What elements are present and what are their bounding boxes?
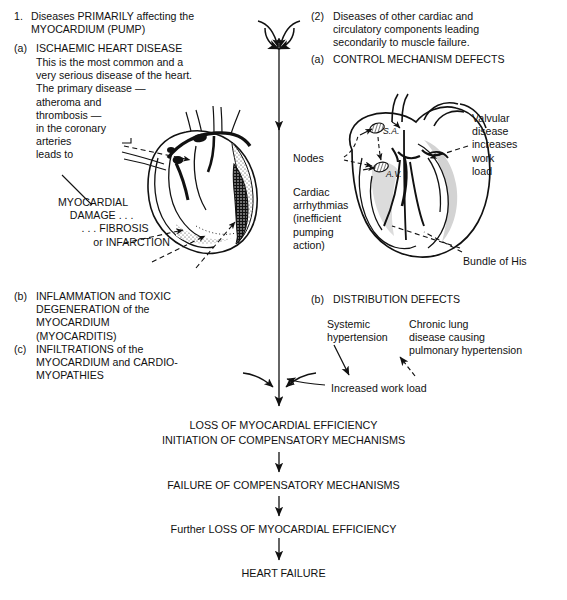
label-nodes: Nodes bbox=[293, 152, 324, 165]
control-mechanism-heart-illustration bbox=[344, 94, 490, 257]
branch-two-item-a: (a) CONTROL MECHANISM DEFECTS bbox=[311, 53, 561, 66]
label-increased-work-load: Increased work load bbox=[331, 382, 427, 395]
label-cardiac-arrhythmias: Cardiac arrhythmias (inefficient pumping… bbox=[293, 186, 348, 252]
pointer-valvular bbox=[430, 146, 468, 158]
label-sa-node: S.A. bbox=[383, 125, 399, 138]
coronary-branch bbox=[176, 163, 188, 200]
arrow-systemic bbox=[334, 345, 349, 375]
infarct-patch bbox=[233, 164, 248, 243]
branch-one-heading: 1. Diseases PRIMARILY affecting the MYOC… bbox=[14, 10, 246, 36]
item-a-marker: (a) bbox=[14, 42, 27, 55]
branch-two-heading: (2) Diseases of other cardiac and circul… bbox=[311, 10, 555, 50]
item-c-text: INFILTRATIONS of the MYOCARDIUM and CARD… bbox=[14, 343, 260, 383]
central-spine-fork-arms bbox=[258, 21, 300, 47]
item-a-title: ISCHAEMIC HEART DISEASE bbox=[14, 42, 250, 55]
heart-failure-flowchart: 1. Diseases PRIMARILY affecting the MYOC… bbox=[0, 0, 567, 600]
branch-two-item-a-title: CONTROL MECHANISM DEFECTS bbox=[311, 53, 561, 66]
branch-two-heading-text: Diseases of other cardiac and circulator… bbox=[311, 10, 555, 50]
pointer-bundle-of-his bbox=[392, 226, 462, 252]
label-av-node: A.V. bbox=[386, 168, 402, 181]
myocardial-damage-outcome: MYOCARDIAL DAMAGE . . . . . . FIBROSIS o… bbox=[58, 196, 170, 249]
branch-two-marker: (2) bbox=[311, 10, 324, 23]
item-a-body: This is the most common and a very serio… bbox=[36, 56, 246, 162]
branch-one-item-b: (b) INFLAMMATION and TOXIC DEGENERATION … bbox=[14, 290, 254, 343]
branch-one-heading-text: Diseases PRIMARILY affecting the MYOCARD… bbox=[14, 10, 246, 36]
branch-two-item-b-title: DISTRIBUTION DEFECTS bbox=[311, 293, 541, 306]
septum bbox=[404, 130, 406, 240]
item-b-text: INFLAMMATION and TOXIC DEGENERATION of t… bbox=[14, 290, 254, 343]
branch-two-item-a-marker: (a) bbox=[311, 53, 324, 66]
cascade-step-4: HEART FAILURE bbox=[0, 566, 567, 581]
label-valvular-disease: Valvular disease increases work load bbox=[472, 112, 517, 178]
distribution-arrows bbox=[287, 345, 415, 385]
branch-one-marker: 1. bbox=[14, 10, 23, 23]
cascade-step-2: FAILURE OF COMPENSATORY MECHANISMS bbox=[0, 478, 567, 493]
valve-cusps bbox=[392, 148, 442, 162]
cascade-step-1: LOSS OF MYOCARDIAL EFFICIENCY INITIATION… bbox=[0, 418, 567, 448]
branch-two-item-b-marker: (b) bbox=[311, 293, 324, 306]
arrow-to-spine bbox=[287, 379, 325, 385]
heart-outline-right bbox=[350, 107, 490, 257]
cascade-step-3: Further LOSS OF MYOCARDIAL EFFICIENCY bbox=[0, 522, 567, 537]
pointer-infarction bbox=[196, 222, 235, 268]
branch-one-item-c: (c) INFILTRATIONS of the MYOCARDIUM and … bbox=[14, 343, 260, 383]
label-systemic-hypertension: Systemic hypertension bbox=[327, 318, 388, 344]
fibrosis-stipple bbox=[176, 224, 232, 244]
central-spine-top-fork bbox=[265, 28, 294, 49]
item-b-marker: (b) bbox=[14, 290, 27, 303]
label-bundle-of-his: Bundle of His bbox=[463, 255, 527, 268]
item-c-marker: (c) bbox=[14, 343, 26, 356]
branch-two-item-b: (b) DISTRIBUTION DEFECTS bbox=[311, 293, 541, 306]
chamber-shading-right bbox=[424, 140, 457, 242]
label-chronic-lung-disease: Chronic lung disease causing pulmonary h… bbox=[409, 318, 522, 358]
arrow-chronic-lung bbox=[400, 357, 415, 376]
branch-one-item-a: (a) ISCHAEMIC HEART DISEASE bbox=[14, 42, 250, 55]
